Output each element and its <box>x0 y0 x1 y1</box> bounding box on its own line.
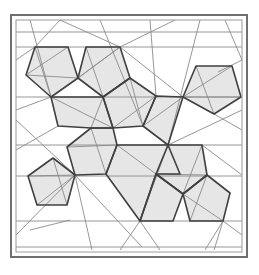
pentagon-tiling-diagram <box>0 0 259 275</box>
